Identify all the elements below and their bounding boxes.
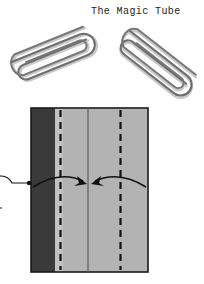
roll-behind-arrow [0, 176, 31, 208]
dark-band [31, 108, 55, 272]
paper-sheet [31, 108, 148, 272]
page-root: The Magic Tube [0, 0, 204, 284]
mid-band [55, 108, 63, 272]
fold-diagram [0, 0, 204, 284]
